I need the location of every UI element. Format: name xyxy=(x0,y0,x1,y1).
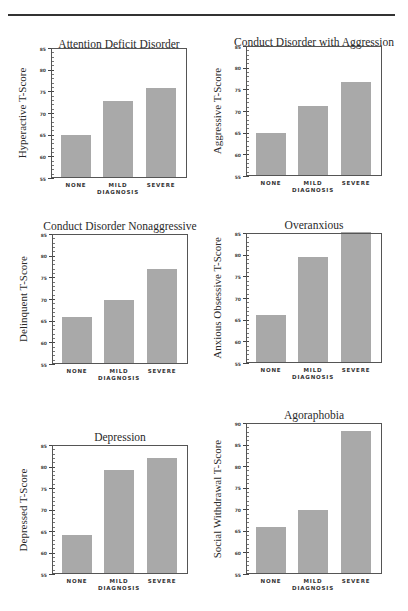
x-category-label: MILD xyxy=(110,368,129,374)
plot-area xyxy=(246,46,382,176)
chart-title: Depression xyxy=(94,431,146,443)
chart-title: Conduct Disorder Nonaggressive xyxy=(43,220,196,232)
y-tick-label: 60 xyxy=(227,339,241,344)
y-tick-label: 60 xyxy=(227,152,241,157)
x-category-label: MILD xyxy=(304,180,323,186)
y-tick-label: 75 xyxy=(227,274,241,279)
y-tick-label: 80 xyxy=(33,254,47,259)
y-tick-label: 55 xyxy=(227,361,241,366)
y-tick xyxy=(49,364,55,365)
y-tick-label: 70 xyxy=(32,111,46,116)
y-tick-label: 70 xyxy=(33,508,47,513)
y-axis-title: Delinquent T-Score xyxy=(17,256,29,342)
y-tick-label: 85 xyxy=(227,44,241,49)
y-axis-title: Aggressive T-Score xyxy=(211,68,223,154)
x-category-label: MILD xyxy=(304,578,323,584)
y-tick-label: 55 xyxy=(33,362,47,367)
y-tick-label: 85 xyxy=(33,443,47,448)
y-tick-label: 70 xyxy=(227,296,241,301)
chart-title: Agoraphobia xyxy=(284,409,344,421)
x-axis-title: DIAGNOSIS xyxy=(292,585,334,591)
x-category-label: SEVERE xyxy=(342,367,371,373)
y-tick-label: 60 xyxy=(32,154,46,159)
x-category-label: MILD xyxy=(110,578,129,584)
x-category-label: SEVERE xyxy=(342,180,371,186)
y-axis-title: Social Withdrawal T-Score xyxy=(211,439,223,558)
x-category-label: SEVERE xyxy=(148,578,177,584)
plot-area xyxy=(246,423,382,574)
y-axis-title: Hyperactive T-Score xyxy=(16,68,28,159)
y-tick-label: 85 xyxy=(33,232,47,237)
y-tick-label: 85 xyxy=(227,443,241,448)
y-tick-label: 55 xyxy=(32,176,46,181)
x-category-label: NONE xyxy=(66,182,87,188)
plot-area xyxy=(51,48,187,178)
y-tick-label: 70 xyxy=(33,297,47,302)
y-tick-label: 75 xyxy=(227,486,241,491)
y-tick-label: 60 xyxy=(33,340,47,345)
y-tick-label: 60 xyxy=(33,551,47,556)
y-tick-label: 55 xyxy=(227,174,241,179)
x-axis-title: DIAGNOSIS xyxy=(98,585,140,591)
y-tick xyxy=(243,176,249,177)
x-category-label: NONE xyxy=(67,578,88,584)
y-tick xyxy=(243,363,249,364)
y-tick-label: 65 xyxy=(227,529,241,534)
x-category-label: NONE xyxy=(261,367,282,373)
y-tick-label: 65 xyxy=(227,318,241,323)
y-tick-label: 70 xyxy=(227,507,241,512)
y-tick-label: 80 xyxy=(227,464,241,469)
x-axis-title: DIAGNOSIS xyxy=(292,187,334,193)
y-tick-label: 80 xyxy=(227,253,241,258)
y-tick-label: 60 xyxy=(227,550,241,555)
y-tick-label: 80 xyxy=(227,66,241,71)
y-tick-label: 75 xyxy=(33,486,47,491)
y-tick xyxy=(48,178,54,179)
y-tick-label: 75 xyxy=(227,87,241,92)
x-category-label: NONE xyxy=(67,368,88,374)
y-tick-label: 65 xyxy=(33,319,47,324)
y-tick-label: 75 xyxy=(32,89,46,94)
y-tick-label: 80 xyxy=(32,68,46,73)
y-tick-label: 85 xyxy=(32,46,46,51)
y-tick-label: 75 xyxy=(33,275,47,280)
y-tick-label: 55 xyxy=(33,572,47,577)
y-tick-label: 65 xyxy=(227,131,241,136)
x-category-label: SEVERE xyxy=(148,368,177,374)
x-axis-title: DIAGNOSIS xyxy=(98,375,140,381)
y-tick-label: 90 xyxy=(227,421,241,426)
y-tick-label: 70 xyxy=(227,109,241,114)
x-category-label: SEVERE xyxy=(147,182,176,188)
y-tick-label: 80 xyxy=(33,465,47,470)
y-axis-title: Anxious Obsessive T-Score xyxy=(211,237,223,359)
y-tick-label: 85 xyxy=(227,231,241,236)
y-tick xyxy=(49,574,55,575)
top-rule xyxy=(8,14,395,16)
plot-area xyxy=(246,233,382,363)
plot-area xyxy=(52,445,188,574)
y-tick-label: 65 xyxy=(33,529,47,534)
y-tick-label: 65 xyxy=(32,133,46,138)
x-category-label: NONE xyxy=(261,578,282,584)
x-axis-title: DIAGNOSIS xyxy=(292,374,334,380)
y-tick-label: 55 xyxy=(227,572,241,577)
x-category-label: NONE xyxy=(261,180,282,186)
x-axis-title: DIAGNOSIS xyxy=(97,189,139,195)
x-category-label: SEVERE xyxy=(342,578,371,584)
x-category-label: MILD xyxy=(304,367,323,373)
y-axis-title: Depressed T-Score xyxy=(17,468,29,551)
chart-title: Overanxious xyxy=(285,219,344,231)
x-category-label: MILD xyxy=(109,182,128,188)
y-tick xyxy=(243,574,249,575)
plot-area xyxy=(52,234,188,364)
